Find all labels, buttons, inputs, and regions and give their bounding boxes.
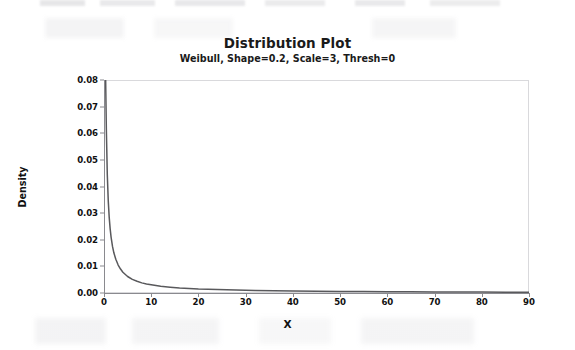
y-tick-mark bbox=[100, 80, 104, 81]
x-tick-mark bbox=[151, 293, 152, 297]
y-tick-mark bbox=[100, 186, 104, 187]
y-axis-tick-labels: 0.000.010.020.030.040.050.060.070.08 bbox=[44, 80, 98, 293]
plot-area bbox=[104, 80, 529, 293]
y-tick-mark bbox=[100, 213, 104, 214]
y-axis-line bbox=[104, 80, 105, 294]
y-axis-tick-marks bbox=[100, 80, 104, 293]
y-tick-label: 0.01 bbox=[77, 261, 98, 271]
chart-title: Distribution Plot bbox=[0, 36, 575, 51]
x-tick-mark bbox=[482, 293, 483, 297]
x-tick-label: 30 bbox=[240, 297, 252, 307]
y-tick-mark bbox=[100, 106, 104, 107]
y-tick-label: 0.07 bbox=[77, 102, 98, 112]
y-tick-label: 0.08 bbox=[77, 75, 98, 85]
chart-subtitle: Weibull, Shape=0.2, Scale=3, Thresh=0 bbox=[0, 53, 575, 65]
x-tick-label: 70 bbox=[429, 297, 441, 307]
x-tick-label: 0 bbox=[101, 297, 107, 307]
density-curve bbox=[104, 80, 529, 293]
distribution-plot-figure: Distribution Plot Weibull, Shape=0.2, Sc… bbox=[0, 0, 575, 350]
y-tick-label: 0.05 bbox=[77, 155, 98, 165]
y-tick-mark bbox=[100, 133, 104, 134]
y-tick-mark bbox=[100, 266, 104, 267]
x-axis-tick-labels: 0102030405060708090 bbox=[104, 297, 529, 311]
title-block: Distribution Plot Weibull, Shape=0.2, Sc… bbox=[0, 36, 575, 65]
x-tick-label: 10 bbox=[145, 297, 157, 307]
x-tick-label: 60 bbox=[381, 297, 393, 307]
y-axis-title: Density bbox=[17, 166, 28, 207]
x-axis-title: X bbox=[0, 318, 575, 330]
y-tick-mark bbox=[100, 159, 104, 160]
x-tick-mark bbox=[435, 293, 436, 297]
y-tick-label: 0.02 bbox=[77, 235, 98, 245]
x-tick-mark bbox=[293, 293, 294, 297]
y-tick-label: 0.06 bbox=[77, 128, 98, 138]
x-axis-tick-marks bbox=[104, 293, 529, 297]
x-tick-label: 50 bbox=[334, 297, 346, 307]
x-tick-label: 20 bbox=[193, 297, 205, 307]
x-tick-label: 90 bbox=[523, 297, 535, 307]
x-tick-mark bbox=[340, 293, 341, 297]
y-tick-label: 0.04 bbox=[77, 182, 98, 192]
x-tick-mark bbox=[246, 293, 247, 297]
x-tick-mark bbox=[529, 293, 530, 297]
y-tick-label: 0.00 bbox=[77, 288, 98, 298]
x-tick-mark bbox=[387, 293, 388, 297]
x-tick-mark bbox=[104, 293, 105, 297]
x-tick-label: 40 bbox=[287, 297, 299, 307]
y-tick-label: 0.03 bbox=[77, 208, 98, 218]
y-tick-mark bbox=[100, 239, 104, 240]
x-tick-mark bbox=[198, 293, 199, 297]
x-tick-label: 80 bbox=[476, 297, 488, 307]
